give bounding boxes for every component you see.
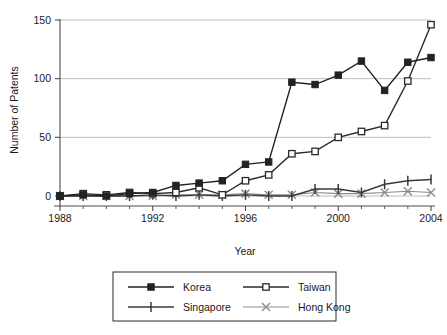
y-axis-title: Number of Patents [8,66,20,154]
data-point [381,87,387,93]
data-point [173,189,179,195]
y-tick-label: 50 [39,131,51,143]
data-point [219,192,225,198]
data-point [338,184,339,194]
legend-marker-open-square [263,284,269,290]
data-point [405,59,411,65]
data-point [312,148,318,154]
legend-label: Korea [183,281,211,293]
x-tick-label: 1996 [234,212,258,224]
gridlines [60,20,431,196]
data-point [407,176,408,186]
data-point [291,191,292,201]
chart-legend: KoreaTaiwanSingaporeHong Kong [113,272,351,321]
data-point [428,21,434,27]
data-point [289,151,295,157]
data-point [431,175,432,185]
data-point [219,178,225,184]
data-point [405,78,411,84]
data-point [381,122,387,128]
x-axis-title: Year [234,245,256,257]
series-line-taiwan [60,25,431,196]
data-point [361,187,362,197]
data-point [358,58,364,64]
legend-label: Singapore [183,301,231,313]
series-taiwan [57,21,434,199]
data-point [289,79,295,85]
data-point [57,193,63,199]
chart-container: 050100150 19881992199620002004 Number of… [0,0,447,335]
x-tick-label: 1988 [48,212,72,224]
y-tick-label: 150 [33,14,51,26]
legend-label: Hong Kong [298,301,351,313]
data-point [268,191,269,201]
y-tick-label: 100 [33,72,51,84]
data-point [335,72,341,78]
data-point [103,193,109,199]
legend-marker-filled-square [148,284,154,290]
data-point [265,159,271,165]
data-point [242,161,248,167]
x-tick-label: 2000 [327,212,351,224]
data-point [126,190,132,196]
data-point [335,134,341,140]
y-tick-label: 0 [45,190,51,202]
data-point [315,184,316,194]
data-point [265,172,271,178]
data-point [150,189,156,195]
patents-line-chart: 050100150 19881992199620002004 Number of… [0,0,447,335]
legend-border [113,272,336,321]
data-point [173,182,179,188]
x-tick-label: 1992 [141,212,165,224]
data-point [196,180,202,186]
data-point [245,190,246,200]
data-series [56,21,435,201]
data-point [80,192,86,198]
data-point [242,178,248,184]
data-point [358,128,364,134]
data-point [312,81,318,87]
data-point [428,54,434,60]
data-point [384,179,385,189]
y-axis-ticks: 050100150 [33,14,60,202]
x-axis-ticks: 19881992199620002004 [48,206,443,224]
x-tick-label: 2004 [419,212,443,224]
legend-label: Taiwan [298,281,331,293]
legend-marker-plus [151,302,152,312]
